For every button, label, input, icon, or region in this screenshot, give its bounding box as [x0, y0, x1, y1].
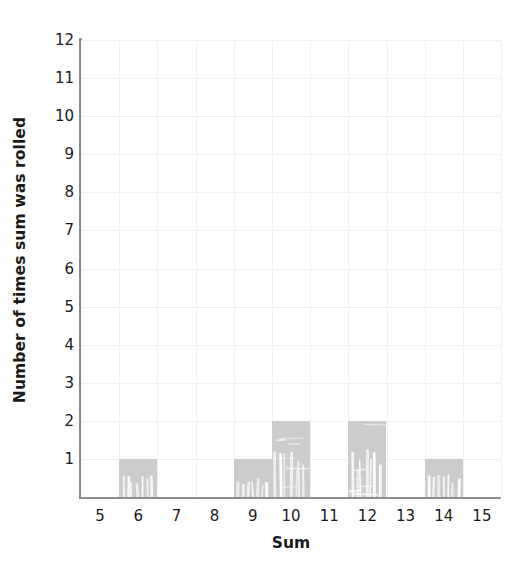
bar-texture [425, 459, 463, 497]
y-axis-tick-label: 4 [40, 336, 74, 354]
y-axis-tick-label: 7 [40, 221, 74, 239]
y-axis-tick-label: 11 [40, 69, 74, 87]
x-axis-tick-label: 14 [424, 507, 464, 525]
y-axis-tick-label: 8 [40, 183, 74, 201]
y-axis-title-label: Number of times sum was rolled [11, 117, 29, 403]
x-axis-tick-label: 11 [309, 507, 349, 525]
x-axis-tick-label: 12 [347, 507, 387, 525]
x-axis-tick-labels: 56789101112131415 [0, 507, 528, 531]
histogram-chart: Number of times sum was rolled 123456789… [0, 0, 528, 570]
bar [348, 421, 386, 497]
y-axis-tick-label: 2 [40, 412, 74, 430]
x-axis-tick-label: 8 [195, 507, 235, 525]
bar-series [81, 40, 501, 497]
x-axis-tick-label: 5 [80, 507, 120, 525]
y-axis-tick-label: 3 [40, 374, 74, 392]
bar-texture [234, 459, 272, 497]
bar [119, 459, 157, 497]
x-axis-tick-label: 6 [118, 507, 158, 525]
plot-area [81, 40, 501, 497]
gridline-vertical [501, 40, 502, 497]
y-axis-title: Number of times sum was rolled [0, 0, 40, 520]
bar-texture [348, 421, 386, 497]
x-axis-tick-label: 7 [157, 507, 197, 525]
y-axis-tick-labels: 123456789101112 [36, 0, 74, 570]
y-axis-tick-label: 1 [40, 450, 74, 468]
x-axis-title: Sum [81, 534, 501, 552]
x-axis-tick-label: 10 [271, 507, 311, 525]
y-axis-tick-label: 5 [40, 298, 74, 316]
bar [425, 459, 463, 497]
y-axis-tick-label: 9 [40, 145, 74, 163]
bar [272, 421, 310, 497]
y-axis-tick-label: 12 [40, 31, 74, 49]
x-axis-tick-label: 15 [462, 507, 502, 525]
bar-texture [272, 421, 310, 497]
bar-texture [119, 459, 157, 497]
y-axis-tick-label: 10 [40, 107, 74, 125]
x-axis-tick-label: 9 [233, 507, 273, 525]
bar [234, 459, 272, 497]
x-axis-tick-label: 13 [386, 507, 426, 525]
y-axis-tick-label: 6 [40, 260, 74, 278]
